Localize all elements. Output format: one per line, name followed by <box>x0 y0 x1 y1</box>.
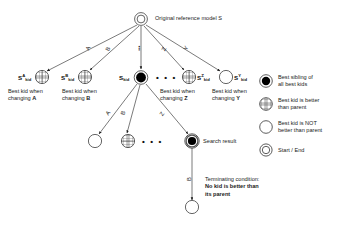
legend-item-best-sibling: Best sibling of all best kids <box>278 74 313 88</box>
caption-bold-tail: Y <box>236 95 240 101</box>
legend-glyph-filled <box>260 75 273 88</box>
caption-line-2: changing Z <box>160 95 195 102</box>
caption-s-a-kid: Best kid when changing A <box>8 88 43 103</box>
edge-skid-to-l2b <box>127 85 140 133</box>
node-label-s-kid-best: Skid <box>119 74 129 82</box>
node-label-sub: kid <box>204 77 210 82</box>
caption-line-2: changing B <box>62 95 97 102</box>
root-caption-text: Original reference model S <box>155 15 222 21</box>
node-root[interactable] <box>135 13 148 26</box>
root-edges <box>47 25 220 71</box>
caption-s-z-kid: Best kid when changing Z <box>160 88 195 103</box>
terminating-line-2: No kid is better than <box>205 183 259 190</box>
legend-line-2: all best kids <box>278 81 313 88</box>
caption-line-1: Best kid when <box>160 88 195 95</box>
legend-glyph-grid <box>260 98 273 111</box>
terminating-line-1: Terminating condition: <box>205 176 259 183</box>
caption-s-b-kid: Best kid when changing B <box>62 88 97 103</box>
node-label-s-b-kid: SBkid <box>61 73 74 82</box>
legend-line-1: Start / End <box>278 147 304 154</box>
node-label-sub: kid <box>123 77 129 82</box>
caption-line-2: changing A <box>8 95 43 102</box>
legend-line-1: Best kid is better <box>278 97 319 104</box>
node-label-s-a-kid: SAkid <box>18 73 31 82</box>
edge-skid-to-l2a <box>99 84 137 134</box>
caption-line-2: changing Y <box>212 95 247 102</box>
node-label-s-y-kid: SYkid <box>234 73 247 82</box>
edge-label-final: B <box>186 177 192 181</box>
legend-line-1: Best kid is NOT <box>278 120 322 127</box>
level1-ellipsis: • • • <box>156 73 177 82</box>
node-label-sub: kid <box>25 77 31 82</box>
node-s-a-kid[interactable] <box>35 70 48 83</box>
node-s-kid-best[interactable] <box>134 71 148 85</box>
node-search-result[interactable] <box>185 134 199 148</box>
legend-line-2: than parent <box>278 104 319 111</box>
terminating-line-3: its parent <box>205 191 259 198</box>
node-label-sub: kid <box>68 77 74 82</box>
caption-line-1: Best kid when <box>8 88 43 95</box>
node-l2-empty[interactable] <box>88 134 101 147</box>
legend-line-2: better than parent <box>278 127 322 134</box>
diagram-canvas: Original reference model S A B ••• Z Y S… <box>0 0 358 229</box>
node-label-sub: kid <box>241 77 247 82</box>
search-result-label: Search result <box>203 138 236 145</box>
legend-item-start-end: Start / End <box>278 147 304 154</box>
node-label-s-z-kid: SZkid <box>197 73 210 82</box>
node-l2-grid[interactable] <box>121 134 134 147</box>
node-s-y-kid[interactable] <box>219 70 232 83</box>
node-s-z-kid[interactable] <box>182 70 195 83</box>
legend-glyph-empty <box>260 121 273 134</box>
root-caption: Original reference model S <box>155 15 222 22</box>
caption-line-1: Best kid when <box>212 88 247 95</box>
legend-glyph-double <box>260 144 272 156</box>
legend-line-1: Best sibling of <box>278 74 313 81</box>
legend-item-better-than-parent: Best kid is better than parent <box>278 97 319 111</box>
edge-root-to-b <box>90 26 139 70</box>
legend-item-not-better-than-parent: Best kid is NOT better than parent <box>278 120 322 134</box>
edge-label-ellipsis: ••• <box>136 45 142 50</box>
node-final[interactable] <box>185 200 198 213</box>
node-s-b-kid[interactable] <box>78 70 91 83</box>
level2-ellipsis: • • • <box>142 137 163 146</box>
edge-root-to-a <box>47 25 137 71</box>
caption-line-1: Best kid when <box>62 88 97 95</box>
search-tree-svg <box>0 0 358 229</box>
caption-s-y-kid: Best kid when changing Y <box>212 88 247 103</box>
terminating-condition: Terminating condition: No kid is better … <box>205 176 259 198</box>
caption-bold-tail: A <box>32 95 36 101</box>
caption-bold-tail: B <box>86 95 90 101</box>
caption-bold-tail: Z <box>184 95 187 101</box>
